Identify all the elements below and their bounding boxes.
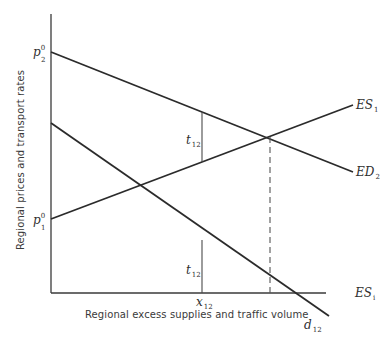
x12-label: x12 — [196, 296, 213, 311]
es1-base: ES — [356, 98, 373, 112]
x12-base: x — [196, 295, 203, 309]
d12-base: d — [304, 318, 312, 332]
esi-label: ESi — [355, 287, 375, 302]
p2-zero-label: p0 2 — [33, 45, 45, 58]
t12-lower-label: t12 — [186, 264, 201, 279]
es1-label: ES1 — [356, 99, 378, 114]
ed2-label: ED2 — [356, 166, 380, 181]
spatial-equilibrium-diagram: Regional prices and transport rates Regi… — [0, 0, 390, 344]
p1-sup: 0 — [41, 212, 45, 220]
t12-upper-base: t — [186, 133, 191, 147]
p1-zero-label: p0 1 — [33, 213, 45, 226]
ed2-base: ED — [356, 165, 374, 179]
diagram-canvas — [0, 0, 390, 344]
t12-lower-sub: 12 — [192, 271, 201, 279]
y-axis-label: Regional prices and transport rates — [16, 70, 26, 250]
p2-base: p — [33, 45, 41, 59]
p1-base: p — [33, 213, 41, 227]
p1-sub: 1 — [41, 225, 45, 232]
es1-sub: 1 — [374, 106, 378, 114]
d12-label: d12 — [304, 319, 322, 334]
p2-sup: 0 — [41, 44, 45, 52]
esi-sub: i — [373, 294, 375, 302]
d12-curve — [51, 123, 329, 316]
ed2-sub: 2 — [375, 173, 379, 181]
t12-lower-base: t — [186, 263, 191, 277]
t12-upper-label: t12 — [186, 134, 201, 149]
p2-sub: 2 — [41, 57, 45, 64]
esi-base: ES — [355, 286, 372, 300]
x12-sub: 12 — [204, 303, 213, 311]
t12-upper-sub: 12 — [192, 141, 201, 149]
d12-sub: 12 — [313, 326, 322, 334]
x-axis-label: Regional excess supplies and traffic vol… — [85, 310, 309, 320]
